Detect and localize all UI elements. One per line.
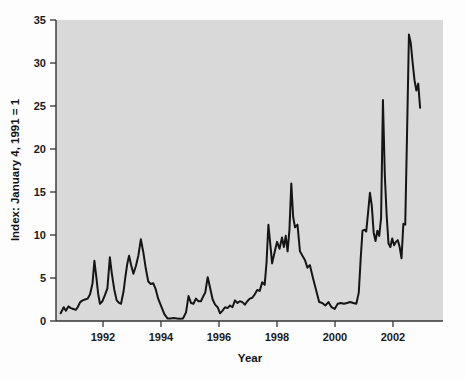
x-tick-label-1992: 1992: [91, 331, 115, 343]
x-axis-title: Year: [238, 352, 263, 364]
y-tick-label-0: 0: [40, 315, 46, 327]
line-chart: 0 5 10 15 20 25 30 35 Index: January 4, …: [0, 0, 465, 381]
y-tick-label-30: 30: [34, 57, 46, 69]
y-tick-label-25: 25: [34, 100, 46, 112]
x-tick-label-1998: 1998: [265, 331, 289, 343]
x-tick-label-1994: 1994: [149, 331, 174, 343]
x-tick-label-2000: 2000: [323, 331, 347, 343]
chart-figure: 0 5 10 15 20 25 30 35 Index: January 4, …: [0, 0, 465, 381]
y-tick-label-5: 5: [40, 272, 46, 284]
y-axis-title: Index: January 4, 1991 = 1: [9, 98, 21, 241]
y-tick-label-20: 20: [34, 143, 46, 155]
y-tick-label-10: 10: [34, 229, 46, 241]
x-tick-label-2002: 2002: [381, 331, 405, 343]
y-tick-label-15: 15: [34, 186, 46, 198]
y-tick-label-35: 35: [34, 14, 46, 26]
x-tick-label-1996: 1996: [207, 331, 231, 343]
